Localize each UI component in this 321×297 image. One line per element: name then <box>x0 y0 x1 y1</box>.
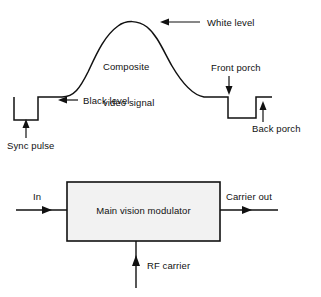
block-diagram-drawing <box>0 0 321 297</box>
output-arrowhead-icon <box>242 206 252 214</box>
figure-root: Composite video signal White level Black… <box>0 0 321 297</box>
input-label: In <box>33 191 41 202</box>
rf-carrier-label: RF carrier <box>147 260 190 271</box>
input-arrowhead-icon <box>42 206 52 214</box>
rf-carrier-arrowhead-icon <box>132 255 140 266</box>
output-label: Carrier out <box>226 191 272 202</box>
main-vision-modulator-label: Main vision modulator <box>76 205 211 216</box>
